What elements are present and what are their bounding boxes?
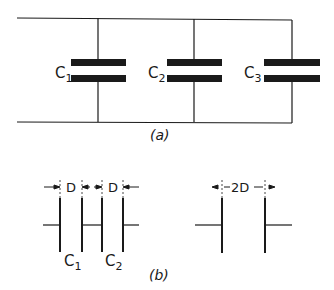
capacitor-diagram: C1 C2 C3 (a) D D 2D C1 C2 (b): [0, 0, 334, 290]
caption-a: (a): [150, 127, 170, 143]
c2-plate-bottom: [167, 75, 222, 82]
c3-plate-top: [264, 59, 320, 66]
c3-plate-bottom: [264, 75, 320, 82]
c1-label: C1: [55, 64, 72, 85]
b-c1-label: C1: [64, 252, 81, 273]
c2-label: C2: [148, 64, 165, 85]
dimension-d-left: D: [66, 180, 76, 195]
bottom-rail: [17, 122, 292, 123]
top-rail: [17, 18, 292, 20]
diagram-svg: C1 C2 C3 (a) D D 2D C1 C2 (b): [0, 0, 334, 290]
dimension-d-right: D: [108, 180, 118, 195]
c3-label: C3: [244, 64, 261, 85]
caption-b: (b): [149, 267, 169, 283]
c2-plate-top: [167, 59, 222, 66]
b-c2-label: C2: [105, 252, 122, 273]
c1-plate-top: [71, 59, 126, 66]
c1-plate-bottom: [71, 75, 126, 82]
dimension-2d: 2D: [231, 180, 249, 195]
